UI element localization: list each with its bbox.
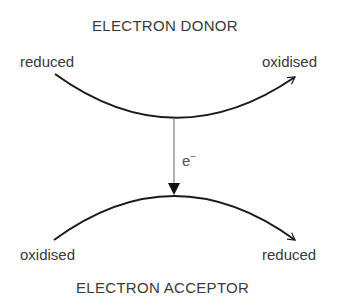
acceptor-title: ELECTRON ACCEPTOR bbox=[76, 280, 249, 295]
acceptor-end-label: reduced bbox=[262, 247, 316, 262]
electron-label: e− bbox=[182, 152, 196, 168]
electron-charge: − bbox=[190, 151, 196, 162]
donor-curve-arrow bbox=[55, 74, 295, 118]
acceptor-start-label: oxidised bbox=[20, 247, 75, 262]
electron-transfer-arrowhead-icon bbox=[168, 183, 180, 195]
acceptor-curve-arrow bbox=[54, 196, 295, 240]
